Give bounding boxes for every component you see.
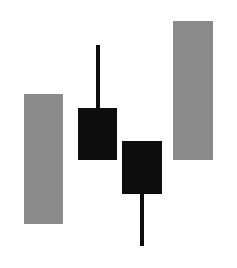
right-gray-bar-body (173, 21, 213, 160)
candlestick-figure (0, 0, 237, 268)
candle-element-right-gray (0, 0, 237, 268)
